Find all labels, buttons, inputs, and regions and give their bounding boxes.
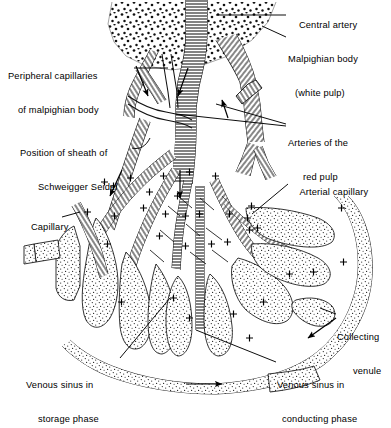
venous-sinuses	[56, 207, 335, 356]
label-venous-sinus-storage: Venous sinus in storage phase	[26, 357, 99, 428]
label-schweigger-seidel-sheath: Position of sheath of Schweigger Seidel	[20, 125, 118, 216]
label-capillary: Capillary	[20, 211, 68, 245]
label-malpighian-body: Malpighian body (white pulp)	[288, 31, 358, 122]
label-venous-sinus-conducting: Venous sinus in conducting phase	[277, 357, 357, 428]
label-arterial-capillary: Arterial capillary	[289, 176, 368, 210]
leader-malpighian-body	[262, 26, 286, 37]
